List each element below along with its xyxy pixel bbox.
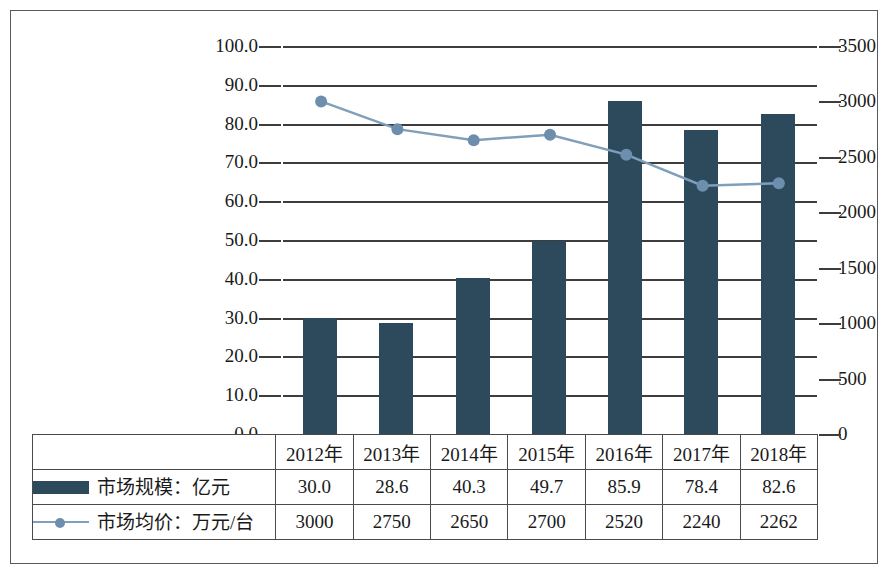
table-value-cell: 3000 <box>276 505 353 540</box>
axis-tick-right <box>819 268 841 270</box>
right-axis-tick-label: 0 <box>838 424 888 443</box>
left-axis-tick-label: 60.0 <box>0 191 258 210</box>
right-axis-tick-label: 2000 <box>838 202 888 221</box>
left-axis-tick-label: 50.0 <box>0 230 258 249</box>
table-value-cell: 30.0 <box>276 470 353 505</box>
legend-cell: 市场规模：亿元 <box>33 470 276 505</box>
axis-tick-right <box>819 379 841 381</box>
table-value-cell: 82.6 <box>740 470 817 505</box>
right-axis-tick-label: 1000 <box>838 313 888 332</box>
line-marker <box>315 95 327 107</box>
left-axis-tick-label: 30.0 <box>0 308 258 327</box>
chart-canvas: 0.010.020.030.040.050.060.070.080.090.01… <box>0 0 890 460</box>
axis-tick-right <box>819 323 841 325</box>
axis-tick-right <box>819 434 841 436</box>
axis-tick-left <box>259 318 281 320</box>
table-header-row: 2012年2013年2014年2015年2016年2017年2018年 <box>33 435 818 470</box>
axis-tick-left <box>259 46 281 48</box>
legend-label: 市场均价：万元/台 <box>97 513 254 532</box>
left-axis-tick-label: 80.0 <box>0 114 258 133</box>
table-value-cell: 2240 <box>663 505 740 540</box>
axis-tick-right <box>819 157 841 159</box>
data-table-block: 2012年2013年2014年2015年2016年2017年2018年市场规模：… <box>32 434 818 538</box>
axis-tick-left <box>259 356 281 358</box>
left-axis-tick-label: 90.0 <box>0 75 258 94</box>
axis-tick-right <box>819 46 841 48</box>
left-axis-tick-label: 10.0 <box>0 385 258 404</box>
right-axis-tick-label: 2500 <box>838 147 888 166</box>
table-header-year: 2013年 <box>353 435 430 470</box>
line-marker <box>697 180 709 192</box>
table-value-cell: 28.6 <box>353 470 430 505</box>
table-header-year: 2014年 <box>431 435 508 470</box>
axis-tick-right <box>819 101 841 103</box>
line-path <box>321 101 779 185</box>
table-header-year: 2012年 <box>276 435 353 470</box>
table-row: 市场均价：万元/台3000275026502700252022402262 <box>33 505 818 540</box>
legend-label: 市场规模：亿元 <box>97 478 230 497</box>
left-axis-tick-label: 100.0 <box>0 36 258 55</box>
table-value-cell: 2650 <box>431 505 508 540</box>
line-marker <box>544 129 556 141</box>
table-header-year: 2015年 <box>508 435 585 470</box>
line-marker <box>620 149 632 161</box>
table-value-cell: 85.9 <box>585 470 662 505</box>
table-value-cell: 49.7 <box>508 470 585 505</box>
legend-cell: 市场均价：万元/台 <box>33 505 276 540</box>
right-axis-tick-label: 1500 <box>838 258 888 277</box>
table-value-cell: 40.3 <box>431 470 508 505</box>
axis-tick-right <box>819 212 841 214</box>
axis-tick-left <box>259 240 281 242</box>
line-marker-swatch-icon <box>33 516 89 529</box>
table-header-year: 2017年 <box>663 435 740 470</box>
table-value-cell: 2700 <box>508 505 585 540</box>
table-value-cell: 2520 <box>585 505 662 540</box>
right-axis-tick-label: 500 <box>838 369 888 388</box>
left-axis-tick-label: 70.0 <box>0 152 258 171</box>
axis-tick-left <box>259 85 281 87</box>
table-value-cell: 2262 <box>740 505 817 540</box>
line-marker <box>468 134 480 146</box>
line-marker <box>773 177 785 189</box>
left-axis-tick-label: 40.0 <box>0 269 258 288</box>
left-axis-tick-label: 20.0 <box>0 346 258 365</box>
right-axis-tick-label: 3000 <box>838 91 888 110</box>
table-corner-blank <box>33 435 276 470</box>
axis-tick-left <box>259 279 281 281</box>
table-value-cell: 78.4 <box>663 470 740 505</box>
chart-page: 0.010.020.030.040.050.060.070.080.090.01… <box>0 0 890 576</box>
bar-swatch-icon <box>33 481 89 494</box>
right-axis-tick-label: 3500 <box>838 36 888 55</box>
table-header-year: 2018年 <box>740 435 817 470</box>
axis-tick-left <box>259 162 281 164</box>
line-series <box>283 46 817 434</box>
plot-area <box>283 46 817 434</box>
line-marker <box>391 123 403 135</box>
table-value-cell: 2750 <box>353 505 430 540</box>
table-header-year: 2016年 <box>585 435 662 470</box>
axis-tick-left <box>259 124 281 126</box>
axis-tick-left <box>259 201 281 203</box>
data-table: 2012年2013年2014年2015年2016年2017年2018年市场规模：… <box>32 434 818 540</box>
axis-tick-left <box>259 395 281 397</box>
table-row: 市场规模：亿元30.028.640.349.785.978.482.6 <box>33 470 818 505</box>
